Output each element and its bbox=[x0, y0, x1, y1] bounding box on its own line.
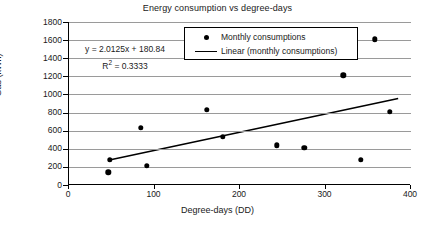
legend-item-linear-fit: Linear (monthly consumptions) bbox=[185, 44, 357, 58]
x-axis-tick-mark bbox=[154, 185, 155, 189]
x-axis-tick-mark bbox=[239, 185, 240, 189]
gridline bbox=[69, 167, 411, 168]
gridline bbox=[69, 113, 411, 114]
r-squared-value: R2 = 0.3333 bbox=[72, 56, 178, 73]
y-axis-tick-label: 400 bbox=[22, 143, 62, 153]
r2-rest: = 0.3333 bbox=[112, 61, 148, 71]
y-axis-tick-label: 1800 bbox=[22, 17, 62, 27]
y-axis-tick-label: 1200 bbox=[22, 71, 62, 81]
gridline bbox=[69, 22, 411, 23]
gridline bbox=[69, 94, 411, 95]
gridline bbox=[69, 131, 411, 132]
x-axis-tick-label: 400 bbox=[390, 189, 430, 199]
gridline bbox=[69, 76, 411, 77]
regression-annotation: y = 2.0125x + 180.84 R2 = 0.3333 bbox=[72, 43, 178, 73]
dot-marker-icon bbox=[191, 35, 221, 40]
x-axis-tick-label: 0 bbox=[48, 189, 88, 199]
y-axis-tick-label: 600 bbox=[22, 125, 62, 135]
x-axis-tick-mark bbox=[325, 185, 326, 189]
equation-rest: = 2.0125x + 180.84 bbox=[89, 44, 165, 54]
y-axis-tick-label: 0 bbox=[22, 180, 62, 190]
legend-item-monthly-consumptions: Monthly consumptions bbox=[185, 30, 357, 44]
y-axis-tick-label: 800 bbox=[22, 107, 62, 117]
gridline bbox=[69, 149, 411, 150]
line-marker-icon bbox=[191, 51, 221, 52]
y-axis-tick-label: 1400 bbox=[22, 53, 62, 63]
legend-label: Linear (monthly consumptions) bbox=[221, 46, 337, 56]
regression-equation: y = 2.0125x + 180.84 bbox=[72, 43, 178, 56]
x-axis-tick-mark bbox=[68, 185, 69, 189]
x-axis-tick-label: 100 bbox=[134, 189, 174, 199]
chart-legend: Monthly consumptions Linear (monthly con… bbox=[184, 27, 358, 60]
x-axis-tick-mark bbox=[410, 185, 411, 189]
chart-container: Energy consumption vs degree-days 020040… bbox=[0, 0, 435, 228]
y-axis-tick-label: 200 bbox=[22, 161, 62, 171]
legend-label: Monthly consumptions bbox=[221, 32, 306, 42]
x-axis-tick-label: 200 bbox=[219, 189, 259, 199]
y-axis-tick-label: 1600 bbox=[22, 35, 62, 45]
x-axis-title: Degree-days (DD) bbox=[0, 205, 435, 215]
y-axis-tick-label: 1000 bbox=[22, 89, 62, 99]
y-axis-title: Gas (kWh) bbox=[0, 53, 3, 96]
x-axis-tick-label: 300 bbox=[305, 189, 345, 199]
